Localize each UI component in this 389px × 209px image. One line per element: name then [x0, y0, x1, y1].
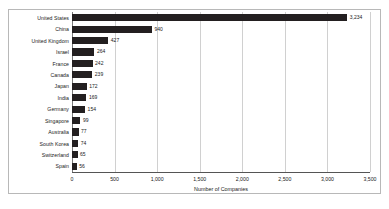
- plot-wrapper: United StatesChinaUnited KingdomIsraelFr…: [8, 12, 381, 192]
- category-axis-labels: United StatesChinaUnited KingdomIsraelFr…: [8, 12, 72, 172]
- bar: [72, 128, 79, 135]
- category-label: United Kingdom: [31, 36, 69, 47]
- x-tick-label: 2,000: [236, 175, 249, 184]
- category-label: Germany: [47, 104, 69, 115]
- bar: [72, 48, 94, 55]
- bar-row: 239: [72, 69, 370, 80]
- category-label: United States: [37, 13, 69, 24]
- bar-row: 77: [72, 126, 370, 137]
- category-label: India: [58, 93, 70, 104]
- bar-chart-figure: United StatesChinaUnited KingdomIsraelFr…: [0, 0, 389, 209]
- bar-value-label: 74: [81, 139, 87, 148]
- bar-row: 172: [72, 81, 370, 92]
- bar-value-label: 264: [97, 47, 105, 56]
- bar: [72, 71, 92, 78]
- bar-value-label: 77: [81, 127, 87, 136]
- category-label: Switzerland: [42, 150, 69, 161]
- bar: [72, 163, 77, 170]
- category-label: Japan: [55, 81, 69, 92]
- bar: [72, 94, 86, 101]
- bar-value-label: 242: [95, 59, 103, 68]
- bar-row: 74: [72, 138, 370, 149]
- bar-value-label: 56: [79, 162, 85, 171]
- category-label: Canada: [51, 70, 69, 81]
- category-label: China: [55, 24, 69, 35]
- bar-row: 242: [72, 58, 370, 69]
- x-axis-title: Number of Companies: [72, 185, 370, 194]
- x-tick-label: 500: [110, 175, 119, 184]
- bar: [72, 60, 93, 67]
- x-axis-tick-labels: 05001,0001,5002,0002,5003,0003,500: [72, 175, 370, 185]
- bar: [72, 151, 78, 158]
- category-label: Singapore: [45, 116, 69, 127]
- bar-value-label: 3,234: [350, 13, 363, 22]
- bar-value-label: 172: [89, 82, 97, 91]
- bar-row: 940: [72, 23, 370, 34]
- gridline-3500: [370, 12, 371, 172]
- bar: [72, 140, 78, 147]
- bar-row: 427: [72, 35, 370, 46]
- bar: [72, 117, 80, 124]
- category-label: France: [53, 59, 69, 70]
- x-tick-label: 3,000: [321, 175, 334, 184]
- bar-row: 264: [72, 46, 370, 57]
- bar: [72, 106, 85, 113]
- bar-value-label: 99: [83, 116, 89, 125]
- x-tick-label: 0: [71, 175, 74, 184]
- bar-row: 3,234: [72, 12, 370, 23]
- category-label: Israel: [56, 47, 69, 58]
- x-tick-label: 1,000: [151, 175, 164, 184]
- bar: [72, 26, 152, 33]
- category-label: Spain: [55, 161, 69, 172]
- bar-row: 56: [72, 161, 370, 172]
- bar-row: 154: [72, 103, 370, 114]
- bar-row: 65: [72, 149, 370, 160]
- x-tick-label: 3,500: [364, 175, 377, 184]
- bar-value-label: 940: [155, 25, 163, 34]
- bar: [72, 14, 347, 21]
- bar-value-label: 239: [95, 70, 103, 79]
- bar: [72, 83, 87, 90]
- plot-area: 3,2349404272642422391721691549977746556: [72, 12, 370, 172]
- bar-value-label: 427: [111, 36, 119, 45]
- category-label: South Korea: [40, 139, 69, 150]
- category-label: Australia: [48, 127, 69, 138]
- x-tick-label: 1,500: [193, 175, 206, 184]
- x-axis-line: [72, 172, 370, 173]
- bar: [72, 37, 108, 44]
- x-tick-label: 2,500: [278, 175, 291, 184]
- bar-row: 99: [72, 115, 370, 126]
- bar-value-label: 154: [88, 105, 96, 114]
- bar-value-label: 65: [80, 150, 86, 159]
- bar-value-label: 169: [89, 93, 97, 102]
- bar-row: 169: [72, 92, 370, 103]
